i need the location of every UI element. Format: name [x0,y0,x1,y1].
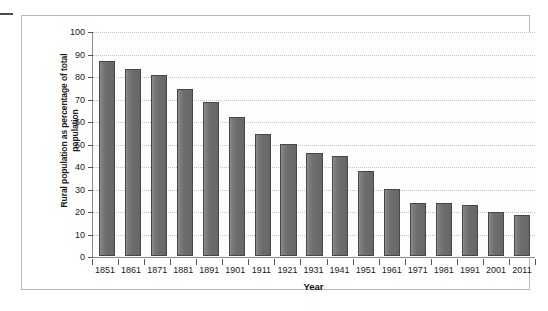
bar-slot [483,32,509,256]
bar [177,89,193,256]
gridline [93,257,535,258]
bar [280,144,296,256]
bar [384,189,400,256]
page-edge-dash-artifact [0,13,13,15]
bar-slot [146,32,172,256]
x-tick-label: 1971 [405,265,431,275]
x-tick-label: 1911 [248,265,274,275]
bar-slot [405,32,431,256]
bar-slot [302,32,328,256]
x-tick-label: 1871 [144,265,170,275]
y-tick-mark [88,190,93,191]
bar-slot [509,32,535,256]
bar [99,61,115,256]
plot-wrap: 1009080706050403020100 [92,32,535,258]
y-tick-label: 90 [75,50,85,60]
y-tick-mark [88,257,93,258]
bar [255,134,271,256]
bar [410,203,426,256]
y-tick-label: 10 [75,230,85,240]
x-tick-mark [535,259,536,265]
y-tick-label: 70 [75,95,85,105]
x-tick-label: 1931 [301,265,327,275]
y-tick-mark [88,167,93,168]
x-tick-label: 1921 [274,265,300,275]
y-tick-mark [88,55,93,56]
bar [125,69,141,256]
bar-slot [224,32,250,256]
bar [488,212,504,256]
bar [151,75,167,256]
bar-slot [327,32,353,256]
y-tick-label: 50 [75,140,85,150]
y-tick-mark [88,32,93,33]
x-tick-label: 1951 [353,265,379,275]
bar [332,156,348,256]
bar-slot [353,32,379,256]
y-axis-title-line-1: Rural population as percentage of total [59,31,70,231]
y-tick-label: 30 [75,185,85,195]
bar-slot [198,32,224,256]
bar [462,205,478,256]
y-tick-mark [88,77,93,78]
x-axis-tick-labels: 1851186118711881189119011911192119311941… [92,265,535,275]
bar-slot [276,32,302,256]
plot-area: 1009080706050403020100 [92,32,535,258]
x-tick-label: 1891 [196,265,222,275]
x-tick-label: 1941 [327,265,353,275]
bar-slot [431,32,457,256]
x-tick-label: 1901 [222,265,248,275]
bar [203,102,219,256]
y-axis-title: Rural population as percentage of total … [59,31,80,231]
x-tick-label: 1851 [92,265,118,275]
bar-slot [172,32,198,256]
bar [436,203,452,256]
y-tick-mark [88,145,93,146]
y-axis-title-line-2: population [69,31,80,231]
y-tick-label: 40 [75,162,85,172]
y-tick-label: 100 [70,27,85,37]
bar [358,171,374,256]
x-tick-label: 1981 [431,265,457,275]
bar-slot [457,32,483,256]
bar-slot [379,32,405,256]
bar [306,153,322,256]
chart-figure-frame: Rural population as percentage of total … [21,15,530,290]
x-tick-label: 2001 [483,265,509,275]
x-tick-label: 1961 [379,265,405,275]
bar-slot [120,32,146,256]
x-axis-title: Year [92,281,535,292]
y-tick-label: 0 [80,252,85,262]
bar-slot [94,32,120,256]
y-tick-mark [88,212,93,213]
y-tick-label: 60 [75,117,85,127]
y-tick-label: 80 [75,72,85,82]
bar-slot [250,32,276,256]
bar [229,117,245,256]
y-tick-mark [88,122,93,123]
x-tick-label: 1881 [170,265,196,275]
y-tick-mark [88,100,93,101]
y-tick-mark [88,235,93,236]
y-tick-label: 20 [75,207,85,217]
x-tick-label: 1991 [457,265,483,275]
bar [514,215,530,256]
x-tick-label: 2011 [509,265,535,275]
bar-series [94,32,535,256]
x-tick-label: 1861 [118,265,144,275]
